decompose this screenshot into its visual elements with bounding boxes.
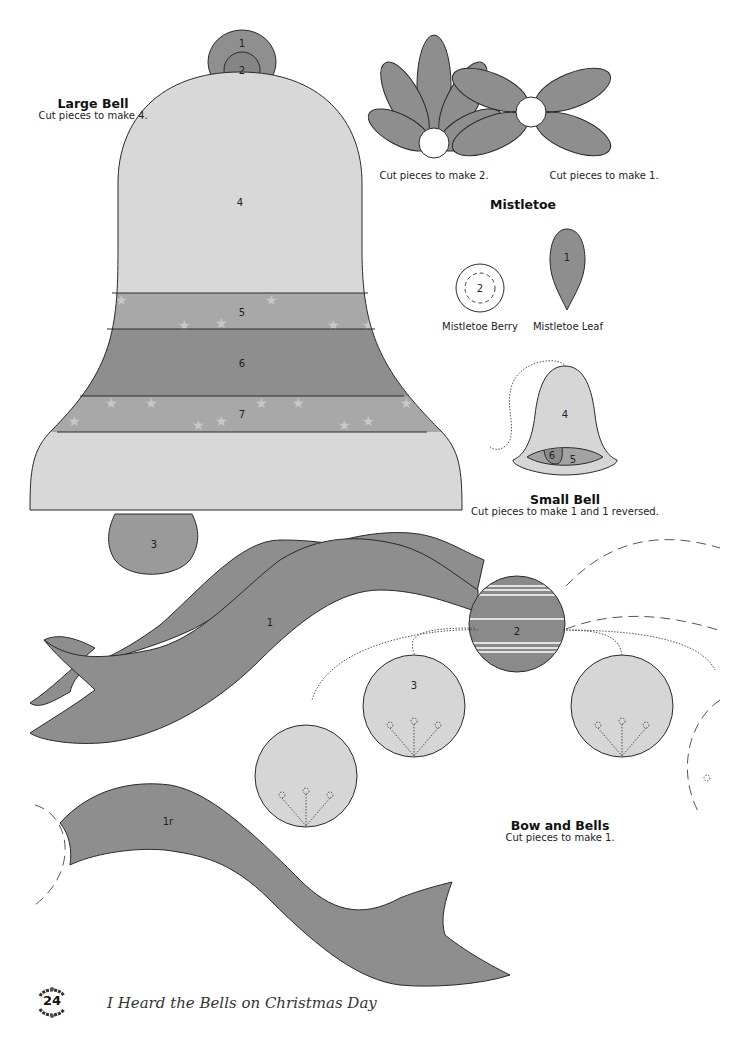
large-bell-instruction: Cut pieces to make 4.: [38, 110, 147, 121]
pattern-artwork: ★ ★ ★ ★ ★ ★ ★ ★ ★ ★ ★ ★ ★ ★ ★ ★: [0, 0, 751, 1044]
svg-text:★: ★: [105, 395, 118, 411]
piece-number: 4: [562, 409, 568, 420]
piece-number: 3: [151, 539, 157, 550]
mistletoe-title: Mistletoe: [490, 197, 556, 212]
piece-number: 2: [514, 626, 520, 637]
svg-text:★: ★: [362, 413, 375, 429]
svg-text:★: ★: [327, 317, 340, 333]
piece-number: 5: [570, 454, 576, 465]
svg-text:★: ★: [338, 417, 351, 433]
mistletoe-left-caption: Cut pieces to make 2.: [379, 170, 488, 181]
mistletoe-leaf: [550, 229, 585, 310]
svg-text:★: ★: [265, 292, 278, 308]
piece-number: 3: [411, 680, 417, 691]
svg-text:★: ★: [192, 417, 205, 433]
svg-text:★: ★: [215, 413, 228, 429]
large-bell-title: Large Bell: [58, 96, 129, 111]
piece-number: 4: [237, 197, 243, 208]
piece-number: 1r: [163, 816, 173, 827]
svg-text:★: ★: [292, 395, 305, 411]
book-title-footer: I Heard the Bells on Christmas Day: [107, 994, 377, 1012]
piece-number: 7: [239, 409, 245, 420]
bow-and-bells-instruction: Cut pieces to make 1.: [505, 832, 614, 843]
svg-text:★: ★: [255, 395, 268, 411]
piece-number: 5: [239, 307, 245, 318]
mistletoe-right-caption: Cut pieces to make 1.: [549, 170, 658, 181]
mistletoe-berry-label: Mistletoe Berry: [442, 321, 518, 332]
piece-number: 1: [564, 252, 570, 263]
small-bell-instruction: Cut pieces to make 1 and 1 reversed.: [471, 506, 659, 517]
piece-number: 6: [239, 358, 245, 369]
svg-text:★: ★: [145, 395, 158, 411]
piece-number: 1: [239, 38, 245, 49]
piece-number: 2: [239, 65, 245, 76]
piece-number: 1: [267, 617, 273, 628]
page-number-badge: 24: [34, 982, 70, 1022]
page-number: 24: [34, 993, 70, 1008]
small-bell-title: Small Bell: [530, 492, 600, 507]
piece-number: 2: [477, 283, 483, 294]
svg-text:★: ★: [178, 317, 191, 333]
bow-bell-piece-3: [255, 655, 673, 827]
mistletoe-leaf-label: Mistletoe Leaf: [533, 321, 603, 332]
svg-text:★: ★: [68, 413, 81, 429]
bow-and-bells-title: Bow and Bells: [511, 818, 610, 833]
piece-number: 6: [549, 450, 555, 461]
